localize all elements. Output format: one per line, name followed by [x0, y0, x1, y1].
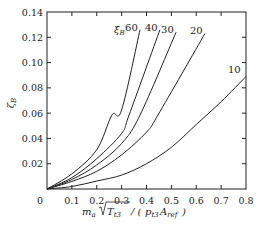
- svg-text:Aref: Aref: [159, 206, 179, 219]
- x-tick-label: 0.3: [114, 195, 129, 206]
- x-tick-label: 0.2: [89, 195, 104, 206]
- curve-30: [47, 32, 176, 189]
- curve-60: [47, 30, 140, 189]
- y-tick-label: 0.02: [22, 158, 43, 169]
- svg-text:ma: ma: [82, 206, 96, 219]
- curves: [47, 30, 246, 189]
- svg-text:/ (: / (: [130, 206, 143, 217]
- curve-label-10: 10: [228, 64, 241, 75]
- x-tick-label: 0.6: [189, 195, 204, 206]
- svg-text:pt3: pt3: [145, 206, 159, 219]
- curve-labels: 6040302010: [125, 22, 241, 76]
- curve-label-30: 30: [161, 24, 174, 35]
- x-tick-label: 0.1: [64, 195, 79, 206]
- y-axis-title: ζB: [5, 98, 18, 109]
- curve-label-40: 40: [145, 22, 158, 33]
- y-tick-label: 0.10: [22, 57, 43, 68]
- curve-20: [47, 33, 205, 189]
- chart: 00.10.20.30.40.50.60.70.80.020.040.060.0…: [0, 0, 258, 227]
- y-tick-label: 0.12: [22, 32, 43, 43]
- y-tick-label: 0.04: [22, 133, 43, 144]
- curve-label-20: 20: [190, 25, 203, 36]
- curve-label-60: 60: [125, 22, 138, 33]
- y-tick-label: 0.06: [22, 108, 43, 119]
- x-tick-label: 0.5: [164, 195, 179, 206]
- legend-title: ξB: [114, 24, 125, 37]
- axis-ticks: 00.10.20.30.40.50.60.70.80.020.040.060.0…: [22, 7, 254, 207]
- svg-text:Tt3: Tt3: [107, 206, 121, 219]
- x-tick-label: 0.7: [214, 195, 229, 206]
- x-tick-label: 0.8: [238, 195, 253, 206]
- x-tick-label: 0.4: [139, 195, 154, 206]
- svg-text:): ): [181, 206, 186, 217]
- y-tick-label: 0.14: [22, 7, 43, 18]
- y-tick-label: 0.08: [22, 82, 43, 93]
- x-tick-label: 0: [37, 195, 43, 206]
